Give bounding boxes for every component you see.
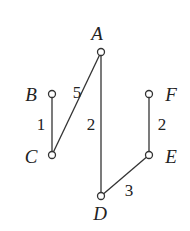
- node-label-a: A: [89, 23, 103, 44]
- node-label-e: E: [164, 146, 177, 167]
- node-label-c: C: [25, 146, 38, 167]
- node-b: [49, 91, 56, 98]
- weight-d-e: 3: [125, 181, 134, 200]
- weight-b-c: 1: [37, 115, 46, 134]
- weight-a-d: 2: [87, 115, 96, 134]
- node-label-b: B: [25, 84, 37, 105]
- weight-f-e: 2: [158, 115, 167, 134]
- node-d: [98, 193, 105, 200]
- node-a: [98, 49, 105, 56]
- node-e: [146, 152, 153, 159]
- edges: [52, 52, 149, 196]
- node-label-d: D: [92, 203, 107, 224]
- node-c: [49, 152, 56, 159]
- node-label-f: F: [164, 84, 177, 105]
- graph-diagram: A B C D E F 1 5 2 2 3: [0, 0, 190, 231]
- weight-a-c: 5: [73, 83, 82, 102]
- edge-a-c: [52, 52, 101, 155]
- node-f: [146, 91, 153, 98]
